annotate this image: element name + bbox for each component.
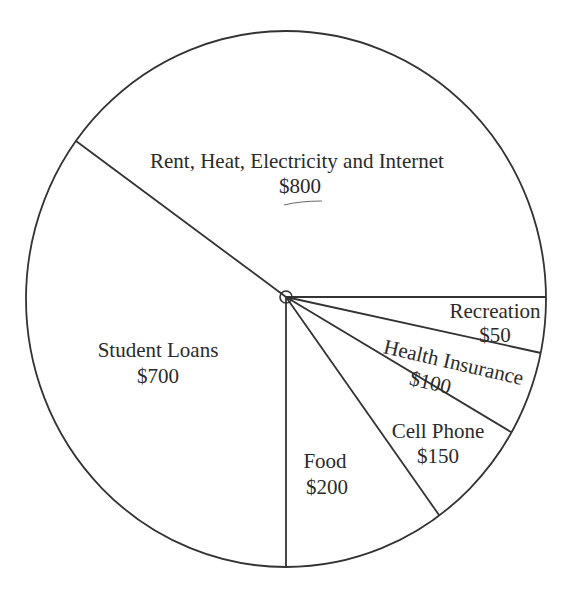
slice-label-cell-phone: Cell Phone xyxy=(392,419,485,443)
slice-value-rent: $800 xyxy=(279,174,321,198)
slice-label-food: Food xyxy=(303,449,347,473)
slice-value-student-loans: $700 xyxy=(137,364,179,388)
slice-label-rent: Rent, Heat, Electricity and Internet xyxy=(150,149,444,173)
slice-value-food: $200 xyxy=(306,475,348,499)
slice-label-student-loans: Student Loans xyxy=(98,338,219,362)
slice-label-recreation: Recreation xyxy=(450,299,541,323)
slice-value-cell-phone: $150 xyxy=(417,444,459,468)
pie-chart: Rent, Heat, Electricity and Internet $80… xyxy=(0,0,564,593)
slice-value-recreation: $50 xyxy=(479,323,511,347)
